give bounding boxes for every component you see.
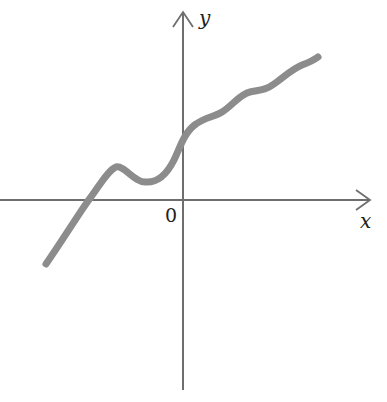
origin-label: 0 (165, 204, 177, 226)
x-axis-label: x (360, 209, 371, 233)
function-graph-figure: y x 0 (0, 0, 387, 402)
y-axis-label: y (198, 6, 211, 30)
graph-svg: y x 0 (0, 0, 387, 402)
x-axis (0, 190, 370, 210)
